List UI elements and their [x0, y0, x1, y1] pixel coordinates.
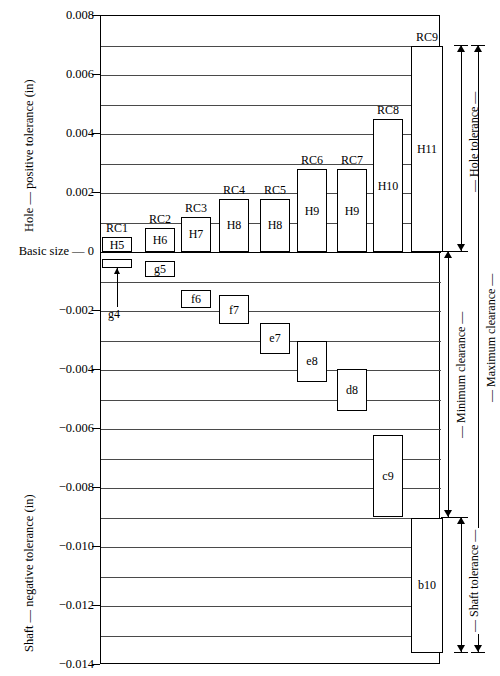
annotation-arrow-down — [457, 645, 465, 652]
y-tick-label: 0.004 — [30, 127, 94, 140]
g4-callout-label: g4 — [108, 308, 120, 320]
hole-box-RC2: H6 — [145, 228, 175, 252]
gridline — [101, 282, 441, 283]
shaft-box-RC9: b10 — [411, 518, 443, 654]
annotation-bar-hole-tolerance — [461, 45, 462, 252]
y-tick-mark — [92, 310, 100, 311]
hole-box-RC7: H9 — [337, 169, 367, 252]
fit-label-RC2: RC2 — [141, 213, 179, 225]
y-tick-label: 0.008 — [30, 9, 94, 22]
annotation-arrow-up — [457, 517, 465, 524]
y-tick-mark — [92, 487, 100, 488]
gridline — [101, 577, 441, 578]
annotation-label-shaft-tolerance: — Shaft tolerance — — [466, 528, 483, 634]
tolerance-grade-label: H5 — [110, 239, 125, 251]
y-tick-label: 0.002 — [30, 186, 94, 199]
fit-label-RC6: RC6 — [293, 154, 331, 166]
hole-box-RC6: H9 — [297, 169, 327, 252]
annotation-cap — [454, 251, 468, 252]
fit-label-RC7: RC7 — [333, 154, 371, 166]
tolerance-grade-label: f7 — [229, 304, 239, 316]
fit-label-RC4: RC4 — [215, 184, 253, 196]
y-tick-label: −0.006 — [30, 422, 94, 435]
tolerance-grade-label: e7 — [269, 332, 280, 344]
y-tick-mark — [92, 192, 100, 193]
tolerance-grade-label: f6 — [191, 293, 201, 305]
y-tick-label: −0.002 — [30, 304, 94, 317]
tolerance-chart-plot-area: H5RC1H6RC2H7RC3H8RC4H8RC5H9RC6H9RC7H10RC… — [100, 15, 440, 664]
fit-label-RC1: RC1 — [98, 222, 136, 234]
shaft-box-RC4: f7 — [219, 295, 249, 325]
y-tick-label: −0.014 — [30, 658, 94, 671]
tolerance-grade-label: H8 — [227, 219, 242, 231]
y-tick-mark — [92, 664, 100, 665]
gridline — [101, 606, 441, 607]
annotation-label-minimum-clearance: — Minimum clearance — — [453, 310, 470, 440]
g4-callout-arrowhead — [114, 268, 120, 274]
y-tick-label: −0.010 — [30, 540, 94, 553]
gridline — [101, 636, 441, 637]
annotation-cap — [454, 652, 468, 653]
annotation-cap — [471, 652, 485, 653]
tolerance-grade-label: H7 — [189, 228, 204, 240]
tolerance-grade-label: d8 — [346, 384, 358, 396]
y-axis-title-hole: Hole — positive tolerance (in) — [22, 79, 37, 232]
shaft-box-RC8: c9 — [373, 435, 403, 518]
basic-size-label: Basic size — 0 — [0, 245, 94, 258]
y-tick-mark — [92, 15, 100, 16]
y-tick-label: 0.006 — [30, 68, 94, 81]
annotation-cap — [454, 45, 468, 46]
tolerance-grade-label: e8 — [306, 355, 317, 367]
y-axis-title-shaft: Shaft — negative tolerance (in) — [22, 494, 37, 652]
y-tick-mark — [92, 428, 100, 429]
annotation-cap — [441, 251, 455, 252]
shaft-box-RC5: e7 — [260, 323, 290, 354]
gridline — [101, 429, 441, 430]
shaft-box-RC1 — [102, 259, 132, 268]
annotation-cap — [454, 517, 468, 518]
fit-label-RC5: RC5 — [256, 184, 294, 196]
annotation-label-maximum-clearance: — Maximum clearance — — [483, 272, 500, 404]
fit-label-RC8: RC8 — [369, 104, 407, 116]
gridline — [101, 547, 441, 548]
shaft-box-RC3: f6 — [181, 290, 211, 308]
hole-box-RC8: H10 — [373, 119, 403, 252]
shaft-box-RC6: e8 — [297, 341, 327, 382]
tolerance-grade-label: H9 — [345, 205, 360, 217]
annotation-bar-minimum-clearance — [448, 251, 449, 517]
gridline — [101, 311, 441, 312]
y-axis-ticks: 0.0080.0060.0040.002−0.002−0.004−0.006−0… — [0, 15, 94, 664]
annotation-cap — [441, 517, 455, 518]
annotation-arrow-up — [474, 45, 482, 52]
shaft-box-RC2: g5 — [145, 261, 175, 277]
annotation-cap — [471, 45, 485, 46]
gridline — [101, 400, 441, 401]
annotation-arrow-up — [457, 45, 465, 52]
annotation-arrow-down — [474, 645, 482, 652]
tolerance-grade-label: H9 — [305, 205, 320, 217]
fit-label-RC3: RC3 — [177, 202, 215, 214]
hole-box-RC3: H7 — [181, 217, 211, 252]
annotation-label-hole-tolerance: — Hole tolerance — — [466, 90, 483, 194]
gridline — [101, 370, 441, 371]
hole-box-RC5: H8 — [260, 199, 290, 252]
y-tick-mark — [92, 546, 100, 547]
y-tick-mark — [92, 369, 100, 370]
tolerance-grade-label: H6 — [153, 234, 168, 246]
hole-box-RC9: H11 — [411, 46, 443, 253]
y-tick-mark — [92, 74, 100, 75]
gridline — [101, 46, 441, 47]
tolerance-grade-label: b10 — [418, 579, 436, 591]
annotation-arrow-down — [457, 244, 465, 251]
hole-box-RC1: H5 — [102, 237, 132, 252]
y-tick-mark — [92, 133, 100, 134]
y-tick-mark — [92, 605, 100, 606]
y-tick-label: −0.008 — [30, 481, 94, 494]
annotation-arrow-down — [444, 510, 452, 517]
tolerance-grade-label: H10 — [378, 180, 399, 192]
tolerance-grade-label: c9 — [382, 470, 393, 482]
y-tick-label: −0.004 — [30, 363, 94, 376]
tolerance-grade-label: H11 — [417, 143, 437, 155]
zero-axis-line — [101, 252, 441, 253]
gridline — [101, 518, 441, 519]
